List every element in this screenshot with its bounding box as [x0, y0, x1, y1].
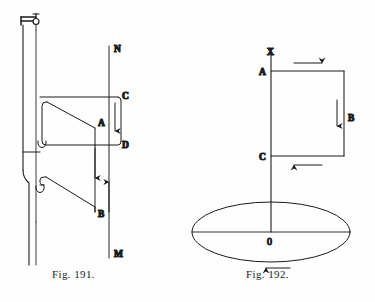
fig-192-caption: Fig. 192.	[246, 268, 289, 280]
illustration-page: N C A D B M X	[0, 0, 375, 302]
fig-192-label-A: A	[259, 67, 266, 77]
fig-191-label-D: D	[122, 140, 129, 150]
figures-canvas: N C A D B M X	[0, 0, 375, 302]
fig-192-label-C: C	[259, 152, 266, 162]
fig-192-group: X A B C 0	[192, 47, 355, 268]
fig-191-hook-lower	[36, 186, 44, 193]
fig-191-label-C: C	[122, 91, 129, 101]
fig-192-label-O: 0	[267, 236, 272, 247]
fig-191-label-M: M	[114, 249, 123, 259]
fig-192-label-B: B	[348, 113, 355, 123]
fig-192-label-X: X	[267, 47, 274, 57]
fig-191-caption: Fig. 191.	[52, 268, 95, 280]
fig-191-group: N C A D B M	[21, 14, 129, 266]
fig-191-top-bracket	[21, 14, 39, 31]
fig-191-vertical-rod	[23, 25, 36, 265]
fig-191-label-B: B	[98, 209, 105, 219]
fig-191-label-A: A	[98, 118, 105, 128]
fig-191-label-N: N	[114, 44, 121, 54]
fig-191-lower-loop	[40, 145, 95, 212]
